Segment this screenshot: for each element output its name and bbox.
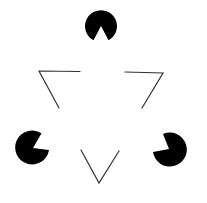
pacman-bottom-right	[153, 133, 187, 167]
pacman-bottom-left	[15, 131, 49, 165]
outline-corner-top-right	[125, 72, 163, 108]
kanizsa-triangle-figure	[0, 0, 207, 203]
outline-corner-top-left	[39, 71, 80, 108]
outline-corner-bottom	[81, 150, 119, 183]
pacman-top	[85, 10, 117, 40]
